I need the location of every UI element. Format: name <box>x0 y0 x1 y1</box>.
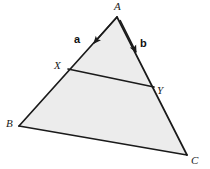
vertex-label-x: X <box>54 60 61 71</box>
vertex-label-a: A <box>114 1 121 12</box>
geometry-figure: A B C X Y a b <box>0 0 210 169</box>
vector-label-b: b <box>140 38 147 49</box>
vertex-label-c: C <box>191 155 198 166</box>
vector-label-a: a <box>74 34 80 45</box>
vertex-label-y: Y <box>157 85 163 96</box>
triangle-diagram-canvas <box>0 0 210 169</box>
vertex-label-b: B <box>6 118 13 129</box>
